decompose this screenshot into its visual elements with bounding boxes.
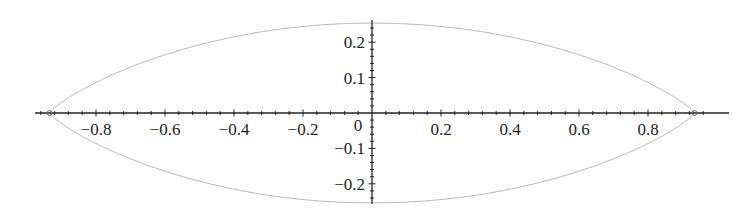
y-tick-label: 0.1 [344, 69, 365, 88]
x-tick-label: 0 [354, 116, 363, 135]
lens-curve-plot: −0.8−0.6−0.4−0.200.20.40.60.8 0.20.1−0.1… [0, 0, 733, 216]
x-tick-labels: −0.8−0.6−0.4−0.200.20.40.60.8 [81, 116, 659, 139]
x-tick-label: 0.6 [568, 120, 589, 139]
y-tick-label: −0.2 [334, 175, 365, 194]
x-tick-label: −0.8 [81, 120, 112, 139]
y-tick-label: 0.2 [344, 33, 365, 52]
x-tick-label: 0.2 [430, 120, 451, 139]
x-tick-label: −0.4 [219, 120, 250, 139]
x-tick-label: −0.2 [288, 120, 319, 139]
y-tick-label: −0.1 [334, 139, 365, 158]
x-tick-label: 0.4 [499, 120, 521, 139]
x-tick-label: 0.8 [637, 120, 658, 139]
x-tick-label: −0.6 [150, 120, 181, 139]
axes [35, 20, 729, 204]
